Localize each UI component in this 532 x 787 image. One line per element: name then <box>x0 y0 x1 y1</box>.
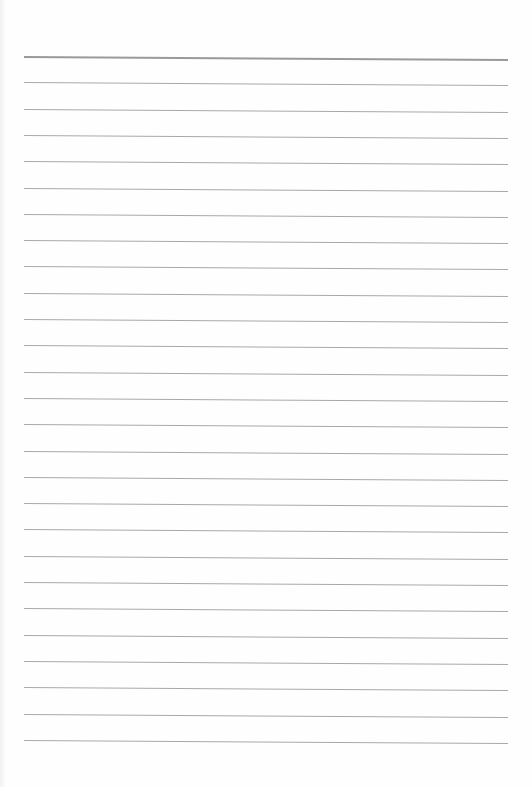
rule-line <box>24 529 508 533</box>
rule-line <box>24 293 508 297</box>
rule-line <box>24 714 508 718</box>
rule-line <box>24 556 508 560</box>
rule-line <box>24 398 508 402</box>
rule-line <box>24 214 508 218</box>
rule-line <box>24 82 508 86</box>
rule-line <box>24 424 508 428</box>
rule-line <box>24 319 508 323</box>
lined-paper-sheet <box>0 0 532 787</box>
rule-line <box>24 109 508 113</box>
rule-line <box>24 188 508 192</box>
rule-line <box>24 687 508 691</box>
rule-line <box>24 740 508 744</box>
rule-line <box>24 477 508 481</box>
rule-line <box>24 503 508 507</box>
rule-line <box>24 582 508 586</box>
rule-line <box>24 451 508 455</box>
page-edge-shadow <box>0 0 6 787</box>
rule-line <box>24 635 508 639</box>
rule-line <box>24 135 508 139</box>
rule-line <box>24 266 508 270</box>
rule-line <box>24 372 508 376</box>
rule-line <box>24 608 508 612</box>
rule-line <box>24 240 508 244</box>
rule-line <box>24 345 508 349</box>
rule-line <box>24 161 508 165</box>
header-rule-line <box>24 56 508 61</box>
rule-line <box>24 661 508 665</box>
